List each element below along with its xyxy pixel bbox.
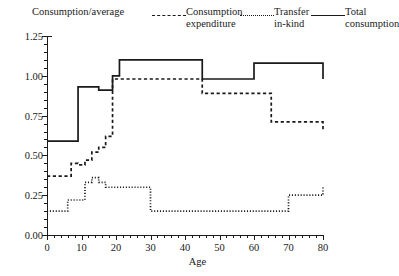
y-axis-tick-label: 0.50 [3, 150, 43, 161]
legend-swatch-dashed-icon [152, 10, 186, 21]
x-axis-tick-label: 0 [32, 242, 62, 253]
legend-item-consumption-average: Consumption/average [32, 6, 124, 18]
series-total-consumption [47, 60, 323, 141]
x-axis-tick-label: 60 [239, 242, 269, 253]
legend-label-transfer-in-kind: Transfer in-kind [274, 6, 309, 29]
x-axis-title: Age [0, 256, 395, 267]
x-axis-tick-label: 50 [205, 242, 235, 253]
legend-item-transfer-in-kind: Transfer in-kind [240, 6, 309, 29]
plot-area [47, 36, 323, 235]
legend-label-consumption-expenditure: Consumption expenditure [186, 6, 243, 29]
series-transfer-in-kind [47, 178, 323, 211]
y-axis-tick-label: 0.75 [3, 110, 43, 121]
y-axis-tick-label: 0.25 [3, 190, 43, 201]
series-consumption-expenditure [47, 79, 323, 176]
x-axis-labels: 01020304050607080 [47, 235, 324, 253]
x-axis-tick-label: 80 [308, 242, 338, 253]
y-axis-tick-label: 0.00 [3, 230, 43, 241]
x-axis-tick-label: 10 [67, 242, 97, 253]
legend-item-consumption-expenditure: Consumption expenditure [152, 6, 243, 29]
chart-legend: Consumption/average Consumption expendit… [0, 4, 395, 34]
y-axis-tick-label: 1.25 [3, 31, 43, 42]
x-axis-tick-label: 40 [170, 242, 200, 253]
x-axis-tick-label: 70 [274, 242, 304, 253]
legend-label-consumption-average: Consumption/average [32, 6, 124, 18]
legend-item-total-consumption: Total consumption [311, 6, 399, 29]
legend-swatch-solid-icon [311, 10, 345, 21]
x-axis-tick-label: 20 [101, 242, 131, 253]
legend-label-total-consumption: Total consumption [345, 6, 399, 29]
x-axis-tick-label: 30 [136, 242, 166, 253]
legend-swatch-dotted-icon [240, 10, 274, 21]
y-axis-tick-label: 1.00 [3, 70, 43, 81]
series-layer [47, 36, 323, 235]
